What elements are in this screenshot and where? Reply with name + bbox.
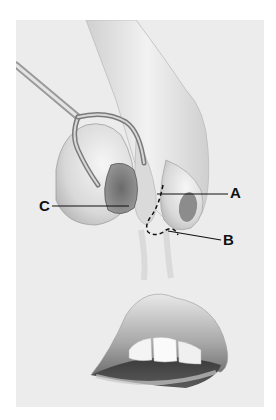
nose-retractor-illustration (16, 20, 264, 407)
label-b: B (223, 232, 234, 247)
mouth (91, 294, 228, 388)
label-c: C (39, 198, 50, 213)
illustration-frame: A B C (16, 20, 264, 407)
leader-line-b (168, 231, 221, 240)
label-a: A (230, 185, 241, 200)
